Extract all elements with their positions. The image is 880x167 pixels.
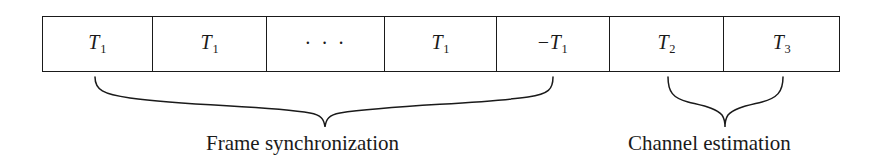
caption-frame-synchronization: Frame synchronization [206, 133, 399, 154]
frame-cell-4-label: T1 [431, 32, 449, 55]
frame-cell-7: T3 [724, 17, 839, 71]
frame-cell-6: T2 [610, 17, 725, 71]
ellipsis-icon: · · · [305, 33, 347, 53]
frame-cell-6-label: T2 [657, 32, 675, 55]
frame-cell-5: −T1 [497, 17, 610, 71]
channel-estimation-brace [668, 77, 783, 127]
frame-cell-2: T1 [153, 17, 268, 71]
frame-cell-2-label: T1 [201, 32, 219, 55]
frame-cell-5-label: −T1 [538, 32, 568, 55]
frame-cell-7-label: T3 [773, 32, 791, 55]
caption-channel-estimation: Channel estimation [628, 133, 791, 154]
frame-cell-3-ellipsis: · · · [267, 17, 385, 71]
frame-structure-table: T1 T1 · · · T1 −T1 T2 T3 [42, 16, 840, 72]
frame-cell-1-label: T1 [88, 32, 106, 55]
frame-cell-1: T1 [43, 17, 153, 71]
frame-structure-diagram: T1 T1 · · · T1 −T1 T2 T3 Frame synchroni… [0, 0, 880, 167]
frame-synchronization-brace [95, 77, 553, 127]
frame-cell-4: T1 [385, 17, 497, 71]
